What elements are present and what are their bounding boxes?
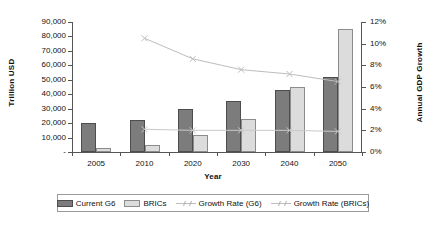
x-tick-label-2040: 2040 xyxy=(266,160,314,168)
legend-item-label: BRICs xyxy=(143,199,166,208)
y-tick-label-left: 30,000 xyxy=(16,105,66,113)
y-tick-left xyxy=(68,80,72,81)
y-tick-left xyxy=(68,65,72,66)
y-tick-label-left: 90,000 xyxy=(16,18,66,26)
plot-area xyxy=(72,22,362,152)
marker-x-icon xyxy=(142,35,148,41)
x-tick xyxy=(120,152,121,156)
y-tick-label-left: 70,000 xyxy=(16,47,66,55)
y-tick-label-left: 40,000 xyxy=(16,90,66,98)
x-tick xyxy=(265,152,266,156)
line-marker-swatch-icon xyxy=(176,200,196,207)
x-tick xyxy=(72,152,73,156)
x-axis-title: Year xyxy=(0,172,426,181)
y-tick-label-right: 10% xyxy=(370,40,410,48)
y-tick-label-left: 10,000 xyxy=(16,134,66,142)
y-tick-right xyxy=(362,44,366,45)
filled-square-swatch-light-icon xyxy=(124,200,140,207)
y-tick-label-right: 4% xyxy=(370,105,410,113)
x-tick xyxy=(217,152,218,156)
x-tick xyxy=(362,152,363,156)
y-axis-title-left: Trillion USD xyxy=(7,43,16,123)
legend-item-growth-rate-brics-: Growth Rate (BRICs) xyxy=(271,199,370,208)
y-tick-right xyxy=(362,87,366,88)
y-tick-left xyxy=(68,123,72,124)
legend-item-label: Growth Rate (BRICs) xyxy=(294,199,370,208)
y-tick-label-left: 50,000 xyxy=(16,76,66,84)
y-tick-left xyxy=(68,94,72,95)
growth-rate-lines xyxy=(72,22,362,152)
y-tick-left xyxy=(68,109,72,110)
line-growth-rate-brics- xyxy=(145,38,338,81)
y-tick-left xyxy=(68,51,72,52)
x-tick-label-2005: 2005 xyxy=(72,160,120,168)
filled-square-swatch-dark-icon xyxy=(57,200,73,207)
y-tick-label-right: 12% xyxy=(370,18,410,26)
legend-item-growth-rate-g6-: Growth Rate (G6) xyxy=(176,199,262,208)
y-tick-label-left: 20,000 xyxy=(16,119,66,127)
y-tick-left xyxy=(68,138,72,139)
y-tick-label-left: - xyxy=(16,148,66,156)
y-tick-right xyxy=(362,130,366,131)
x-tick xyxy=(169,152,170,156)
y-tick-label-right: 8% xyxy=(370,61,410,69)
y-axis-title-right: Annual GDP Growth xyxy=(415,23,424,143)
line-marker-swatch-icon xyxy=(271,200,291,207)
y-tick-right xyxy=(362,65,366,66)
x-tick-label-2020: 2020 xyxy=(169,160,217,168)
gdp-projection-chart: Trillion USD Annual GDP Growth Year -10,… xyxy=(0,0,426,230)
y-tick-label-right: 0% xyxy=(370,148,410,156)
chart-legend: Current G6BRICsGrowth Rate (G6)Growth Ra… xyxy=(57,194,369,212)
legend-item-label: Growth Rate (G6) xyxy=(199,199,262,208)
legend-item-brics: BRICs xyxy=(124,199,166,208)
x-tick-label-2010: 2010 xyxy=(121,160,169,168)
x-tick-label-2050: 2050 xyxy=(314,160,362,168)
y-tick-label-right: 6% xyxy=(370,83,410,91)
x-tick-label-2030: 2030 xyxy=(217,160,265,168)
y-tick-right xyxy=(362,109,366,110)
legend-item-current-g6: Current G6 xyxy=(57,199,116,208)
y-tick-right xyxy=(362,22,366,23)
y-tick-label-left: 80,000 xyxy=(16,32,66,40)
y-tick-left xyxy=(68,22,72,23)
y-tick-left xyxy=(68,36,72,37)
y-tick-label-right: 2% xyxy=(370,126,410,134)
y-tick-label-left: 60,000 xyxy=(16,61,66,69)
x-tick xyxy=(314,152,315,156)
legend-item-label: Current G6 xyxy=(76,199,116,208)
